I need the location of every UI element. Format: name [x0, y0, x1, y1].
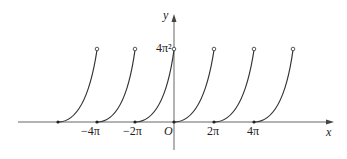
origin-label: O — [164, 124, 173, 139]
open-endpoints — [95, 47, 295, 51]
tick-label-4pi-squared: 4π² — [156, 41, 172, 56]
y-axis-arrow-icon — [172, 14, 177, 22]
tick-label-4pi: 4π — [247, 124, 259, 139]
periodic-function-graph: y x O −4π −2π 2π 4π 4π² — [0, 0, 347, 159]
segment-1 — [58, 50, 97, 122]
segment-4 — [174, 50, 214, 122]
tick-label-minus-4pi: −4π — [81, 124, 100, 139]
graph-canvas — [0, 0, 347, 159]
x-axis-arrow-icon — [326, 120, 334, 125]
segment-6 — [254, 50, 293, 122]
curve-segments — [58, 50, 293, 122]
segment-5 — [214, 50, 254, 122]
x-axis-label: x — [326, 125, 331, 140]
segment-2 — [97, 50, 135, 122]
y-axis-label: y — [163, 8, 168, 23]
tick-label-minus-2pi: −2π — [123, 124, 142, 139]
tick-label-2pi: 2π — [207, 124, 219, 139]
segment-3 — [135, 50, 174, 122]
